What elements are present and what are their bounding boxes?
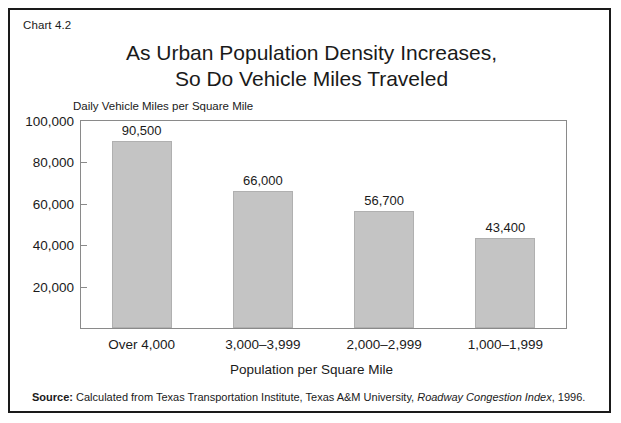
chart-figure: Chart 4.2 As Urban Population Density In…: [8, 8, 611, 413]
bar-slot: 43,400: [445, 121, 566, 328]
bar-value-label: 43,400: [445, 220, 566, 235]
page-title: As Urban Population Density Increases, S…: [10, 40, 613, 92]
source-publication-title: Roadway Congestion Index: [417, 391, 552, 403]
y-tick-label-100000: 100,000: [6, 114, 74, 129]
x-axis-tick-labels: Over 4,000 3,000–3,999 2,000–2,999 1,000…: [81, 337, 566, 352]
chart-number-label: Chart 4.2: [23, 19, 71, 31]
bar: [354, 211, 414, 328]
x-axis-title: Population per Square Mile: [10, 362, 613, 377]
y-tick-label-80000: 80,000: [6, 155, 74, 170]
y-axis-caption: Daily Vehicle Miles per Square Mile: [73, 100, 253, 112]
bar-slot: 90,500: [81, 121, 202, 328]
bar: [112, 141, 172, 328]
bar-slot: 56,700: [324, 121, 445, 328]
x-tick-label: 1,000–1,999: [445, 337, 566, 352]
y-tick-label-20000: 20,000: [6, 279, 74, 294]
x-tick-label: 3,000–3,999: [202, 337, 323, 352]
chart-title-line-1: As Urban Population Density Increases,: [10, 40, 613, 66]
y-tick-label-60000: 60,000: [6, 196, 74, 211]
bar: [233, 191, 293, 328]
y-axis-tick-labels: 100,000 80,000 60,000 40,000 20,000: [10, 120, 74, 329]
source-text-before: Calculated from Texas Transportation Ins…: [73, 391, 417, 403]
x-tick-label: Over 4,000: [81, 337, 202, 352]
bar: [475, 238, 535, 328]
bar-slot: 66,000: [202, 121, 323, 328]
bar-value-label: 66,000: [202, 173, 323, 188]
x-tick-label: 2,000–2,999: [324, 337, 445, 352]
y-tick-label-40000: 40,000: [6, 238, 74, 253]
source-text-after: , 1996.: [552, 391, 586, 403]
bar-value-label: 56,700: [324, 193, 445, 208]
source-label: Source:: [32, 391, 73, 403]
chart-title-line-2: So Do Vehicle Miles Traveled: [10, 66, 613, 92]
source-note: Source: Calculated from Texas Transporta…: [32, 390, 597, 404]
bar-series: 90,500 66,000 56,700 43,400: [81, 121, 566, 328]
bar-value-label: 90,500: [81, 123, 202, 138]
